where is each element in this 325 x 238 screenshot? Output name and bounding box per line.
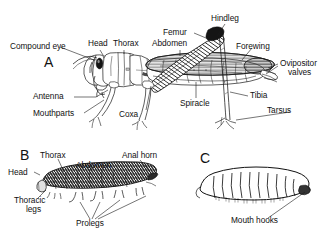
label-c-mouth-hooks: Mouth hooks <box>231 216 278 225</box>
panel-letter-a: A <box>44 54 53 70</box>
label-b-head: Head <box>8 168 28 177</box>
label-coxa: Coxa <box>119 110 138 119</box>
panel-c-artwork <box>196 167 311 218</box>
label-head: Head <box>88 39 108 48</box>
label-thorax: Thorax <box>113 39 139 48</box>
label-b-legs: legs <box>26 205 41 214</box>
label-abdomen: Abdomen <box>152 39 187 48</box>
label-compound-eye: Compound eye <box>10 42 66 51</box>
label-spiracle: Spiracle <box>180 99 210 108</box>
panel-letter-b: B <box>20 147 29 163</box>
panel-letter-c: C <box>200 150 210 166</box>
label-femur: Femur <box>163 28 187 37</box>
label-tarsus: Tarsus <box>267 106 291 115</box>
label-hindleg: Hindleg <box>211 14 239 23</box>
label-mouthparts: Mouthparts <box>33 109 74 118</box>
label-b-abdomen: Abdomen <box>76 161 111 170</box>
label-b-thorax: Thorax <box>40 151 66 160</box>
label-b-prolegs: Prolegs <box>76 219 104 228</box>
label-antenna: Antenna <box>33 92 64 101</box>
insect-anatomy-figure: A Compound eye Head Thorax Abdomen Femur… <box>0 0 325 238</box>
label-forewing: Forewing <box>236 42 270 51</box>
label-b-anal-horn: Anal horn <box>122 151 157 160</box>
label-tibia: Tibia <box>250 91 267 100</box>
label-ovipositor-valves-line2: valves <box>288 68 311 77</box>
